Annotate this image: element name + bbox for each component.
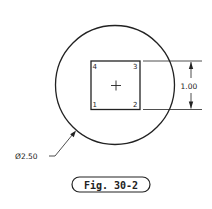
corner-label-1: 1 [93, 101, 97, 109]
outer-circle [56, 26, 175, 145]
center-mark-icon [111, 81, 121, 91]
corner-label-4: 4 [93, 63, 98, 71]
diameter-leader [49, 131, 76, 157]
arrow-down-icon [189, 102, 193, 109]
dimension-label: 1.00 [181, 82, 198, 91]
technical-drawing: 4 3 1 2 1.00 Ø2.50 Fig. 30-2 [0, 0, 212, 209]
arrow-up-icon [189, 62, 193, 69]
diameter-label: Ø2.50 [15, 152, 38, 161]
corner-label-2: 2 [133, 101, 137, 109]
corner-label-3: 3 [133, 63, 137, 71]
figure-caption: Fig. 30-2 [84, 180, 138, 191]
